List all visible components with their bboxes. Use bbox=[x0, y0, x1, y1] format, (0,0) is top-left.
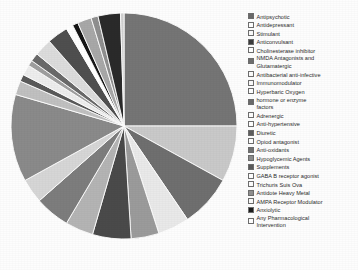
chart-legend: AntipsychoticAntidepressantStimulantAnti… bbox=[248, 12, 356, 230]
legend-item[interactable]: Anti-hypertensive bbox=[248, 120, 356, 129]
legend-item[interactable]: Stimulant bbox=[248, 29, 356, 38]
legend-swatch-icon bbox=[248, 121, 254, 127]
legend-swatch-icon bbox=[248, 198, 254, 204]
legend-item[interactable]: Antibacterial anti-infective bbox=[248, 70, 356, 79]
legend-swatch-icon bbox=[248, 138, 254, 144]
legend-item-label: Stimulant bbox=[257, 29, 280, 38]
legend-item-label: Any Pharmacological Intervention bbox=[257, 215, 310, 230]
legend-item[interactable]: Supplements bbox=[248, 163, 356, 172]
legend-item-label: hormone or enzyme factors bbox=[257, 96, 307, 111]
legend-swatch-icon bbox=[248, 218, 254, 224]
legend-swatch-icon bbox=[248, 88, 254, 94]
legend-item-label: Antidepressant bbox=[257, 21, 294, 30]
legend-item[interactable]: Antidepressant bbox=[248, 21, 356, 30]
legend-item[interactable]: Hypoglycemic Agents bbox=[248, 154, 356, 163]
legend-swatch-icon bbox=[248, 147, 254, 153]
pie-slice[interactable] bbox=[124, 13, 237, 126]
legend-item[interactable]: Opiod antagonist bbox=[248, 137, 356, 146]
legend-swatch-icon bbox=[248, 112, 254, 118]
legend-item-label: Anti-oxidants bbox=[257, 146, 289, 155]
legend-swatch-icon bbox=[248, 22, 254, 28]
legend-swatch-icon bbox=[248, 58, 254, 64]
legend-item[interactable]: NMDA Antagonists and Glutamatergic bbox=[248, 55, 356, 70]
legend-swatch-icon bbox=[248, 130, 254, 136]
legend-item-label: GABA B receptor agonist bbox=[257, 172, 319, 181]
legend-item[interactable]: GABA B receptor agonist bbox=[248, 172, 356, 181]
legend-item[interactable]: Anti-oxidants bbox=[248, 146, 356, 155]
legend-item[interactable]: AMPA Receptor Modulator bbox=[248, 197, 356, 206]
legend-item-label: Adrenergic bbox=[257, 111, 284, 120]
legend-item[interactable]: Anxiolytic bbox=[248, 206, 356, 215]
legend-swatch-icon bbox=[248, 47, 254, 53]
legend-item-label: Opiod antagonist bbox=[257, 137, 299, 146]
legend-swatch-icon bbox=[248, 71, 254, 77]
legend-item-label: Anticonvulsant bbox=[257, 38, 294, 47]
pie-chart-plot-area bbox=[8, 8, 240, 244]
legend-item-label: Trichuris Suis Ova bbox=[257, 180, 303, 189]
legend-swatch-icon bbox=[248, 164, 254, 170]
legend-item[interactable]: Adrenergic bbox=[248, 111, 356, 120]
legend-swatch-icon bbox=[248, 207, 254, 213]
legend-item-label: Antibacterial anti-infective bbox=[257, 70, 321, 79]
legend-item-label: AMPA Receptor Modulator bbox=[257, 197, 323, 206]
legend-swatch-icon bbox=[248, 80, 254, 86]
legend-item[interactable]: Immunomodulator bbox=[248, 79, 356, 88]
legend-item-label: Anti-hypertensive bbox=[257, 120, 300, 129]
pie-slice-group bbox=[11, 13, 237, 239]
legend-item-label: Cholinesterase inhibitor bbox=[257, 46, 316, 55]
pie-chart-svg bbox=[8, 8, 240, 244]
pie-chart-figure: AntipsychoticAntidepressantStimulantAnti… bbox=[0, 0, 358, 270]
legend-item-label: Supplements bbox=[257, 163, 290, 172]
legend-swatch-icon bbox=[248, 30, 254, 36]
legend-swatch-icon bbox=[248, 190, 254, 196]
legend-swatch-icon bbox=[248, 155, 254, 161]
legend-item[interactable]: Cholinesterase inhibitor bbox=[248, 46, 356, 55]
legend-item-label: Antidote Heavy Metal bbox=[257, 189, 310, 198]
legend-swatch-icon bbox=[248, 39, 254, 45]
legend-item-label: Diuretic bbox=[257, 129, 276, 138]
legend-swatch-icon bbox=[248, 173, 254, 179]
legend-swatch-icon bbox=[248, 13, 254, 19]
legend-item[interactable]: Trichuris Suis Ova bbox=[248, 180, 356, 189]
legend-swatch-icon bbox=[248, 99, 254, 105]
legend-item-label: Immunomodulator bbox=[257, 79, 302, 88]
legend-item[interactable]: Antidote Heavy Metal bbox=[248, 189, 356, 198]
legend-item[interactable]: hormone or enzyme factors bbox=[248, 96, 356, 111]
legend-item[interactable]: Any Pharmacological Intervention bbox=[248, 215, 356, 230]
legend-item[interactable]: Anticonvulsant bbox=[248, 38, 356, 47]
legend-item-label: Hyperbaric Oxygen bbox=[257, 87, 305, 96]
legend-item-label: Hypoglycemic Agents bbox=[257, 154, 311, 163]
legend-swatch-icon bbox=[248, 181, 254, 187]
legend-item[interactable]: Diuretic bbox=[248, 129, 356, 138]
legend-item[interactable]: Hyperbaric Oxygen bbox=[248, 87, 356, 96]
legend-item-label: Anxiolytic bbox=[257, 206, 281, 215]
legend-item-label: Antipsychotic bbox=[257, 12, 290, 21]
legend-item-label: NMDA Antagonists and Glutamatergic bbox=[257, 55, 315, 70]
legend-item[interactable]: Antipsychotic bbox=[248, 12, 356, 21]
